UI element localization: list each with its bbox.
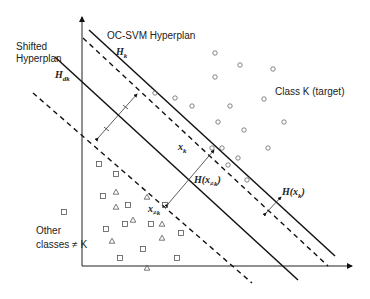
oc-svm-hyperplane [89,30,335,256]
triangle-point [113,189,119,194]
triangle-point [113,204,119,209]
square-point [149,222,154,227]
xnk-label: x≠k [148,203,160,219]
circle-point [220,146,224,150]
class-k-points [153,51,286,182]
h-xk-label: H(xk) [282,186,305,202]
h-xk-close: ) [302,186,305,197]
square-point [179,231,184,236]
xk-sub: k [183,147,187,155]
circle-point [190,104,194,108]
triangle-point [159,221,165,226]
circle-point [226,163,230,167]
shift-distance-arrow [98,94,137,138]
shifted-hyperplane [55,57,298,280]
circle-point [271,67,275,71]
square-point [141,247,146,252]
hk-label: Hk [116,46,127,62]
square-point [123,222,128,227]
triangle-point [109,238,115,243]
circle-point [262,97,266,101]
circle-point [210,146,214,150]
square-point [104,227,109,232]
oc-svm-hyperplane-label: OC-SVM Hyperplan [107,30,195,42]
circle-point [213,75,217,79]
square-point [126,203,131,208]
circle-point [216,120,220,124]
h-xnk-main: H(x [194,174,210,185]
square-point [114,172,119,177]
triangle-point [144,194,150,199]
hk-sub: k [124,52,128,60]
class-k-label: Class K (target) [275,86,344,98]
circle-point [238,63,242,67]
circle-point [266,146,270,150]
circle-point [228,104,232,108]
circle-point [242,128,246,132]
circle-point [236,156,240,160]
triangle-point [159,235,165,240]
hdk-label: Hdk [55,69,70,85]
circle-point [245,178,249,182]
circle-point [282,120,286,124]
square-point [101,194,106,199]
shifted-hyperplane-label-2: Hyperplan [16,53,62,65]
other-classes-label-2: classes ≠ K [36,239,87,251]
circle-point [173,96,177,100]
hdk-sub: dk [63,75,70,83]
h-xnk-close: ) [217,174,220,185]
oc-svm-margin-dashed [83,38,328,266]
xk-label: xk [178,141,187,157]
xnk-sub: ≠k [153,209,160,217]
square-point [97,162,102,167]
square-point [175,256,180,261]
shifted-hyperplane-label-1: Shifted [16,41,47,53]
hdk-main: H [55,69,63,80]
circle-point [213,51,217,55]
square-point [118,256,123,261]
square-point [62,210,67,215]
hk-main: H [116,46,124,57]
h-xk-main: H(x [282,186,298,197]
other-classes-label-1: Other [36,225,61,237]
h-xnk-label: H(x≠k) [194,174,221,190]
triangle-point [130,217,136,222]
